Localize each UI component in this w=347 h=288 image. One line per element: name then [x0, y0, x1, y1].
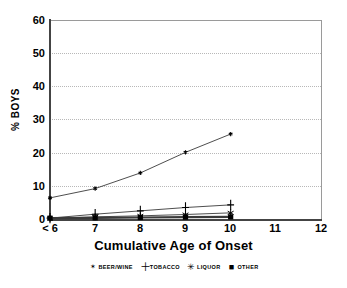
legend-item-other: ■ OTHER: [227, 263, 258, 271]
data-point-marker: [183, 215, 188, 220]
data-point-marker: [47, 216, 52, 221]
x-axis-tick-8: 8: [120, 222, 160, 234]
data-point-marker: [227, 200, 234, 210]
legend-item-beer-wine: ✶ BEER/WINE: [89, 263, 133, 271]
data-point-marker: [93, 215, 98, 220]
square-marker-icon: ■: [227, 263, 235, 271]
data-point-marker: [184, 150, 188, 154]
series-beer-wine: [48, 132, 232, 200]
asterisk-marker-icon: ✳: [187, 263, 195, 271]
plus-marker-icon: ＋: [140, 263, 148, 271]
x-axis-tick-10: 10: [210, 222, 250, 234]
chart-legend: ✶ BEER/WINE ＋ TOBACCO ✳ LIQUOR ■ OTHER: [0, 263, 347, 271]
x-axis-tick-12: 12: [301, 222, 341, 234]
legend-item-liquor: ✳ LIQUOR: [187, 263, 221, 271]
x-axis-tick-11: 11: [255, 222, 295, 234]
data-point-marker: [138, 215, 143, 220]
x-axis-tick-7: 7: [75, 222, 115, 234]
x-axis-tick-lt6: < 6: [30, 222, 70, 234]
x-axis-tick-9: 9: [165, 222, 205, 234]
legend-label-other: OTHER: [237, 264, 258, 270]
chart-figure: 60 50 40 30 20 10 0 % BOYS < 6 7 8 9 10 …: [0, 0, 347, 288]
star-marker-icon: ✶: [89, 263, 97, 271]
legend-label-beer-wine: BEER/WINE: [99, 264, 133, 270]
legend-label-liquor: LIQUOR: [197, 264, 221, 270]
data-point-marker: [229, 132, 233, 136]
data-point-marker: [228, 214, 233, 219]
legend-label-tobacco: TOBACCO: [150, 264, 180, 270]
legend-item-tobacco: ＋ TOBACCO: [140, 263, 180, 271]
x-axis-title: Cumulative Age of Onset: [0, 238, 347, 253]
series-other: [47, 214, 233, 221]
